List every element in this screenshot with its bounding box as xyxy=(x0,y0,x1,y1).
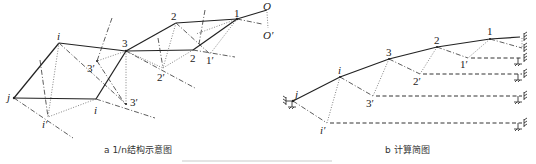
label-b-3-prime: 3′ xyxy=(366,97,374,109)
panel-b-calculation-diagram: j i 3 2 1 1′ 2′ 3′ i′ b 计算简图 xyxy=(283,25,527,155)
dashdot-1prime-ext xyxy=(193,50,235,57)
label-node-i-low: i xyxy=(94,104,97,116)
member-2low-3 xyxy=(126,50,193,51)
node-3prime-up xyxy=(96,60,98,62)
support-1prime xyxy=(514,53,527,66)
dashdot-up-3prime xyxy=(97,18,112,61)
dashdot-b-1-end xyxy=(490,39,522,48)
label-node-2-prime: 2′ xyxy=(157,71,165,83)
dashdot-1-oprime xyxy=(237,19,262,24)
member-j-ilow xyxy=(14,98,96,99)
dashdot-b-j-iprime xyxy=(293,101,327,123)
label-node-i-top: i xyxy=(57,30,60,42)
node-3 xyxy=(125,50,128,53)
cutoff-caption-remnant xyxy=(182,160,332,162)
dotted-o-oprime xyxy=(267,12,268,28)
member-1-2low xyxy=(193,19,237,50)
label-node-3-prime-low: 3′ xyxy=(130,96,138,108)
node-b-2 xyxy=(436,46,438,48)
support-3prime xyxy=(514,91,527,104)
panel-b-caption: b 计算简图 xyxy=(385,144,430,155)
dotted-ilow-iprime xyxy=(48,99,96,117)
label-b-1-prime: 1′ xyxy=(460,58,468,70)
dashdot-up-1prime xyxy=(199,10,205,44)
structure-diagram: O O′ 1 1′ 2 2 2′ 3 3′ 3′ i i i′ j a 1/n结… xyxy=(0,0,536,164)
top-chord xyxy=(293,37,520,101)
member-1-2top xyxy=(176,19,237,23)
label-b-j: j xyxy=(293,88,298,100)
support-iprime xyxy=(514,118,527,131)
label-b-3: 3 xyxy=(386,46,392,58)
label-b-2-prime: 2′ xyxy=(413,75,421,87)
dotted-3-3prime-up xyxy=(97,51,126,61)
node-3prime-low xyxy=(125,103,127,105)
dashdot-2prime-up xyxy=(158,38,163,68)
dotted-2low-2prime xyxy=(163,50,193,68)
label-node-i-prime: i′ xyxy=(42,118,48,130)
node-b-3 xyxy=(388,58,390,60)
label-b-i-prime: i′ xyxy=(320,124,326,136)
label-node-1: 1 xyxy=(234,7,240,19)
label-node-2-low: 2 xyxy=(190,52,196,64)
dashdot-3prime-ext xyxy=(96,99,155,118)
node-b-i xyxy=(339,76,341,78)
label-node-3-prime-up: 3′ xyxy=(87,62,95,74)
node-j xyxy=(13,97,15,99)
node-b-j xyxy=(292,100,294,102)
label-b-1: 1 xyxy=(487,25,493,37)
label-node-1-prime: 1′ xyxy=(206,54,214,66)
panel-a-schematic: O O′ 1 1′ 2 2 2′ 3 3′ 3′ i i i′ j a 1/n结… xyxy=(5,0,274,155)
label-node-3: 3 xyxy=(122,37,128,49)
member-3-ilow xyxy=(96,51,126,99)
member-3-itop xyxy=(59,43,126,51)
node-b-1 xyxy=(489,38,491,40)
dotted-3-2prime-b xyxy=(126,51,163,68)
dashdot-b-3-2prime xyxy=(389,59,420,74)
panel-a-caption: a 1/n结构示意图 xyxy=(104,144,172,155)
dotted-1-1prime xyxy=(210,19,237,54)
label-O-prime: O′ xyxy=(263,29,274,41)
dashdot-3prime-down xyxy=(97,61,125,104)
dotted-b-i-iprime xyxy=(327,77,340,123)
dashdot-iprime-up xyxy=(40,60,48,117)
label-O: O xyxy=(263,0,271,12)
label-b-i: i xyxy=(338,64,341,76)
support-2prime xyxy=(514,69,527,82)
dashdot-b-i-3prime xyxy=(340,77,373,96)
member-2top-3 xyxy=(126,23,176,51)
label-node-2-top: 2 xyxy=(171,10,177,22)
support-top-chord xyxy=(524,32,527,41)
label-node-j: j xyxy=(5,91,10,103)
dashdot-b-2-1prime xyxy=(437,47,468,58)
label-b-2: 2 xyxy=(434,34,440,46)
support-end-diagonal xyxy=(524,43,527,52)
